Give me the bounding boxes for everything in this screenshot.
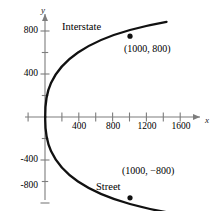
x-axis-label: x <box>205 109 209 127</box>
x-axis-label-text: x <box>205 115 209 125</box>
x-tick-label-1600: 1600 <box>165 121 197 131</box>
parabola-lower-branch <box>45 117 166 211</box>
y-tick-label-neg400: -400 <box>10 154 38 164</box>
y-tick-label-400: 400 <box>14 68 38 78</box>
y-axis-label-text: y <box>41 5 45 15</box>
interstate-label: Interstate <box>62 21 101 32</box>
x-axis-arrow <box>193 114 200 120</box>
x-tick-label-800: 800 <box>99 121 127 131</box>
marked-point-upper <box>127 34 132 39</box>
x-tick-label-1200: 1200 <box>131 121 163 131</box>
y-tick-label-neg800: -800 <box>10 180 38 190</box>
y-tick-label-800: 800 <box>14 25 38 35</box>
upper-point-annotation: (1000, 800) <box>124 43 171 54</box>
marked-point-lower <box>127 195 132 200</box>
street-label: Street <box>96 181 121 192</box>
x-tick-label-400: 400 <box>65 121 93 131</box>
y-axis-label: y <box>41 0 45 17</box>
lower-point-annotation: (1000, −800) <box>122 165 174 176</box>
parabola-upper-branch <box>45 22 166 117</box>
parabola-road-figure: y x 800 400 -400 -800 400 800 1200 1600 … <box>0 0 221 211</box>
